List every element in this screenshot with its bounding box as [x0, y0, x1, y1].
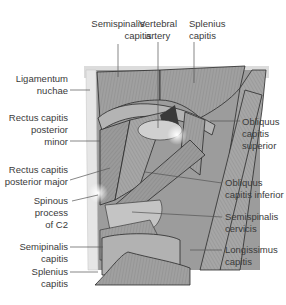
label-spinous-process-c2: Spinous process of C2: [0, 195, 68, 231]
label-line: minor: [0, 136, 68, 148]
ligamentum-nuchae-shape: [86, 70, 98, 270]
label-line: artery: [133, 30, 183, 42]
label-line: Splenius: [189, 18, 225, 30]
label-line: capitis: [0, 278, 68, 290]
label-line: Splenius: [0, 266, 68, 278]
label-longissimus-capitis: Longissimus capitis: [225, 244, 278, 268]
label-rectus-capitis-posterior-minor: Rectus capitis posterior minor: [0, 112, 68, 148]
label-line: Ligamentum: [0, 73, 68, 85]
label-line: Spinous: [0, 195, 68, 207]
label-line: Rectus capitis: [0, 164, 68, 176]
label-vertebral-artery: Vertebral artery: [133, 18, 183, 42]
label-rectus-capitis-posterior-major: Rectus capitis posterior major: [0, 164, 68, 188]
label-line: nuchae: [0, 85, 68, 97]
glow-highlight: [167, 125, 187, 145]
label-line: Rectus capitis: [0, 112, 68, 124]
label-line: of C2: [0, 219, 68, 231]
label-line: process: [0, 207, 68, 219]
label-obliquus-capitis-superior: Obliquus capitis superior: [242, 116, 280, 152]
label-line: posterior major: [0, 176, 68, 188]
label-line: capitis: [189, 30, 225, 42]
label-line: Semispinalis: [225, 211, 278, 223]
label-line: posterior: [0, 124, 68, 136]
label-line: capitis inferior: [225, 189, 284, 201]
label-line: capitis: [0, 253, 68, 265]
label-semispinalis-cervicis: Semispinalis cervicis: [225, 211, 278, 235]
label-ligamentum-nuchae: Ligamentum nuchae: [0, 73, 68, 97]
label-line: Vertebral: [133, 18, 183, 30]
label-splenius-capitis-bottom: Splenius capitis: [0, 266, 68, 290]
label-line: Obliquus: [242, 116, 280, 128]
label-line: Semipinalis: [0, 241, 68, 253]
label-line: Obliquus: [225, 177, 284, 189]
glow-highlight: [88, 183, 108, 203]
label-obliquus-capitis-inferior: Obliquus capitis inferior: [225, 177, 284, 201]
label-line: capitis: [225, 256, 278, 268]
label-line: Longissimus: [225, 244, 278, 256]
label-line: cervicis: [225, 223, 278, 235]
label-semipinalis-capitis-bottom: Semipinalis capitis: [0, 241, 68, 265]
label-line: capitis: [242, 128, 280, 140]
label-splenius-capitis-top: Splenius capitis: [189, 18, 225, 42]
label-line: superior: [242, 140, 280, 152]
